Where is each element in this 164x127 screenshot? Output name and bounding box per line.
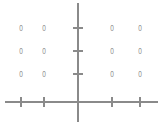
data-point-marker: 0 (110, 47, 114, 56)
axes-group (5, 3, 158, 122)
data-point-marker: 0 (42, 47, 46, 56)
data-point-marker: 0 (42, 70, 46, 79)
coordinate-plot: 000000000000 (0, 0, 164, 127)
data-point-marker: 0 (19, 24, 23, 33)
ticks-group (21, 28, 140, 107)
data-point-marker: 0 (110, 24, 114, 33)
data-point-marker: 0 (138, 47, 142, 56)
data-point-marker: 0 (19, 47, 23, 56)
plot-canvas (0, 0, 164, 127)
data-point-marker: 0 (19, 70, 23, 79)
data-point-marker: 0 (138, 24, 142, 33)
data-point-marker: 0 (42, 24, 46, 33)
data-point-marker: 0 (138, 70, 142, 79)
data-point-marker: 0 (110, 70, 114, 79)
